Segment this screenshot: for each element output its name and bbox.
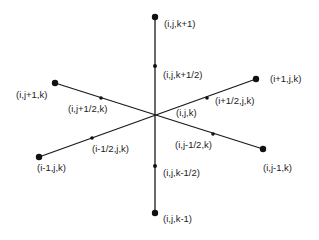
- node-j-plus-1: [52, 80, 58, 86]
- label-j-plus-half: (i,j+1/2,k): [68, 104, 107, 114]
- node-j-minus-1: [260, 146, 266, 152]
- label-k-minus-half: (i,j,k-1/2): [163, 168, 200, 178]
- node-k-minus-half: [153, 164, 157, 168]
- label-i-plus-1: (i+1,j,k): [270, 74, 301, 84]
- label-j-plus-1: (i,j+1,k): [16, 90, 47, 100]
- i-axis-line: [39, 79, 256, 157]
- label-k-plus-1: (i,j,k+1): [164, 19, 195, 29]
- label-j-minus-half: (i,j-1/2,k): [175, 140, 212, 150]
- label-center: (i,j,k): [176, 108, 197, 118]
- node-k-plus-1: [152, 14, 158, 20]
- label-i-minus-1: (i-1,j,k): [37, 163, 66, 173]
- node-k-plus-half: [153, 64, 157, 68]
- label-i-minus-half: (i-1/2,j,k): [92, 144, 129, 154]
- node-i-plus-half: [205, 96, 209, 100]
- node-i-plus-1: [253, 76, 259, 82]
- stencil-diagram: [0, 0, 319, 240]
- node-k-minus-1: [152, 210, 158, 216]
- label-j-minus-1: (i,j-1,k): [263, 163, 292, 173]
- node-j-minus-half: [211, 132, 215, 136]
- label-k-minus-1: (i,j,k-1): [163, 214, 192, 224]
- label-i-plus-half: (i+1/2,j,k): [215, 96, 254, 106]
- node-j-plus-half: [99, 96, 103, 100]
- j-axis-line: [55, 83, 263, 149]
- node-i-minus-1: [36, 154, 42, 160]
- node-i-minus-half: [90, 136, 94, 140]
- label-k-plus-half: (i,j,k+1/2): [163, 70, 202, 80]
